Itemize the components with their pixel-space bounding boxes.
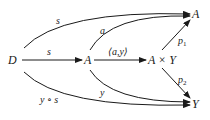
label-y-compose-s: y ∘ s bbox=[39, 94, 58, 105]
node-D: D bbox=[7, 53, 17, 67]
label-s-middle: s bbox=[47, 46, 51, 57]
commutative-diagram: D A A × Y A Y s s a ⟨a,y⟩ p1 p2 y y ∘ s bbox=[0, 0, 210, 120]
label-pair-a-y: ⟨a,y⟩ bbox=[108, 46, 128, 57]
arrow-D-to-A-top bbox=[24, 14, 190, 48]
label-p1: p1 bbox=[177, 35, 187, 48]
node-A-top: A bbox=[191, 7, 200, 21]
arrow-A-middle-to-Y bbox=[90, 70, 190, 102]
node-A-middle: A bbox=[83, 53, 92, 67]
label-y: y bbox=[99, 87, 105, 98]
node-A-times-Y: A × Y bbox=[147, 53, 177, 67]
label-s-top: s bbox=[56, 15, 60, 26]
node-Y-bottom: Y bbox=[192, 97, 200, 111]
label-a: a bbox=[100, 25, 105, 36]
arrow-A-middle-to-A-top bbox=[90, 16, 190, 50]
